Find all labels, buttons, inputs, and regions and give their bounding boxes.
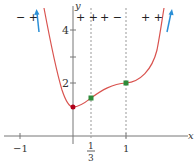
tick-label-third-denominator: 3 [88, 153, 94, 163]
local-minimum-point [71, 105, 76, 110]
x-axis-label: x [188, 130, 194, 141]
tick-label-y2: 2 [62, 77, 69, 90]
tick-label-x-minus1: −1 [13, 143, 28, 154]
sign-region-4: + + [141, 11, 163, 24]
function-graph: y x 4 2 −1 1 1 3 − + + + + − + + [0, 0, 194, 164]
tick-label-third-numerator: 1 [88, 141, 94, 151]
inflection-point-one [124, 81, 129, 86]
sign-region-3: + − [100, 11, 122, 24]
sign-region-1: − + [16, 11, 38, 24]
y-axis-label: y [74, 0, 81, 11]
arrow-up-right-icon [167, 9, 174, 32]
sign-region-2: + + [76, 11, 98, 24]
inflection-point-third [89, 96, 94, 101]
tick-label-x-one: 1 [123, 143, 129, 154]
tick-label-y4: 4 [62, 24, 69, 37]
